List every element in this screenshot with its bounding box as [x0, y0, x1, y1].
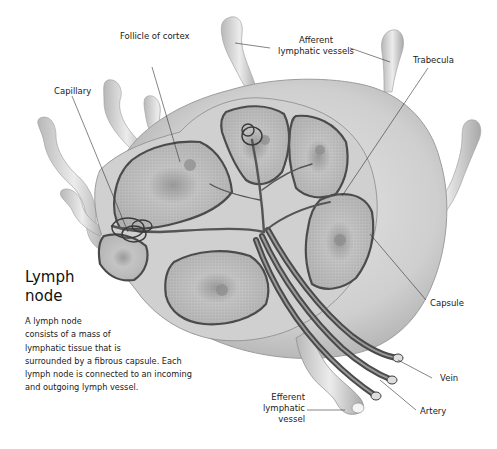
label-efferent-line3: vessel	[255, 414, 305, 425]
label-afferent-lymphatic-vessels: Afferent lymphatic vessels	[276, 35, 356, 57]
label-follicle-of-cortex: Follicle of cortex	[120, 31, 190, 42]
diagram-title: Lymph node	[25, 268, 75, 306]
label-capsule: Capsule	[430, 298, 464, 309]
description-line: consists of a mass of	[25, 328, 225, 341]
label-vein: Vein	[440, 373, 458, 384]
description-line: lymph node is connected to an incoming	[25, 368, 225, 381]
label-efferent-line1: Efferent	[255, 392, 305, 403]
description-text: A lymph node consists of a mass of lymph…	[25, 315, 225, 395]
label-efferent-lymphatic-vessel: Efferent lymphatic vessel	[255, 392, 305, 425]
efferent-opening	[352, 403, 364, 413]
description-line: surrounded by a fibrous capsule. Each	[25, 355, 225, 368]
title-line1: Lymph	[25, 268, 75, 287]
label-artery: Artery	[420, 406, 446, 417]
title-line2: node	[25, 287, 75, 306]
description-line: and outgoing lymph vessel.	[25, 381, 225, 394]
label-capillary: Capillary	[54, 86, 91, 97]
label-afferent-line2: lymphatic vessels	[276, 46, 356, 57]
label-efferent-line2: lymphatic	[255, 403, 305, 414]
label-trabecula: Trabecula	[413, 55, 454, 66]
label-afferent-line1: Afferent	[276, 35, 356, 46]
description-line: lymphatic tissue that is	[25, 342, 225, 355]
description-line: A lymph node	[25, 315, 225, 328]
